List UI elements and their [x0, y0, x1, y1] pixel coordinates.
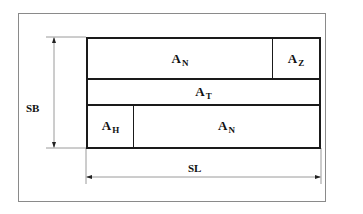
- cell-at: AT: [88, 80, 319, 104]
- cell-an-bottom: AN: [134, 106, 319, 146]
- cell-an-top: AN: [88, 39, 272, 79]
- sb-dimension-label: SB: [26, 102, 39, 114]
- cell-at-label: AT: [195, 84, 211, 101]
- sl-dimension-label: SL: [188, 162, 201, 174]
- cell-ah-label: AH: [102, 118, 119, 135]
- cell-an-top-label: AN: [172, 51, 189, 68]
- cell-az-label: AZ: [288, 51, 304, 68]
- cell-az: AZ: [273, 39, 319, 79]
- cell-an-bottom-label: AN: [218, 118, 235, 135]
- cell-ah: AH: [88, 106, 133, 146]
